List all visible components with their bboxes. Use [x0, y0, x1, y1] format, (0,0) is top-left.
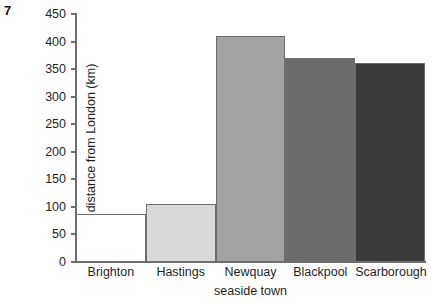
y-axis-tick-mark [71, 68, 76, 70]
x-axis-tick-label: Brighton [76, 266, 146, 279]
bar-hastings [146, 204, 216, 262]
y-axis-tick-label: 100 [45, 201, 66, 214]
bar-blackpool [285, 58, 355, 262]
x-axis-tick-label: Scarborough [355, 266, 425, 279]
y-axis-tick-label: 350 [45, 63, 66, 76]
bar-brighton [76, 214, 146, 262]
bar-chart: distance from London (km) 05010015020025… [0, 0, 435, 303]
y-axis-tick-label: 0 [59, 256, 66, 269]
y-axis-tick-label: 450 [45, 8, 66, 21]
x-axis-tick-label: Hastings [146, 266, 216, 279]
y-axis-tick-mark [71, 178, 76, 180]
x-axis-title: seaside town [76, 285, 425, 298]
plot-area: 050100150200250300350400450 [76, 14, 425, 262]
y-axis-tick-mark [71, 13, 76, 15]
y-axis-tick-mark [71, 151, 76, 153]
y-axis-tick-label: 50 [52, 228, 66, 241]
bar-scarborough [355, 63, 425, 262]
bar-newquay [216, 36, 286, 263]
y-axis-tick-label: 400 [45, 35, 66, 48]
y-axis-tick-label: 200 [45, 146, 66, 159]
y-axis-tick-label: 300 [45, 90, 66, 103]
y-axis-tick-label: 250 [45, 118, 66, 131]
x-axis-tick-label: Newquay [216, 266, 286, 279]
y-axis-tick-mark [71, 96, 76, 98]
x-axis-tick-label: Blackpool [285, 266, 355, 279]
y-axis-tick-mark [71, 123, 76, 125]
y-axis-tick-mark [71, 206, 76, 208]
y-axis-tick-label: 150 [45, 173, 66, 186]
y-axis-tick-mark [71, 41, 76, 43]
